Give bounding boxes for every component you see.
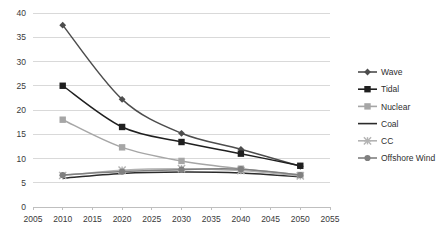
y-tick-label: 40	[17, 8, 27, 18]
legend-item-cc[interactable]: CC	[358, 136, 393, 146]
x-tick-label: 2055	[321, 214, 340, 224]
x-tick-label: 2040	[231, 214, 250, 224]
legend-item-tidal[interactable]: Tidal	[358, 84, 399, 94]
data-point-marker	[297, 163, 303, 169]
y-tick-label: 25	[17, 81, 27, 91]
data-point-marker	[178, 167, 184, 173]
series-line	[63, 86, 301, 166]
y-tick-label: 35	[17, 32, 27, 42]
data-point-marker	[364, 137, 371, 144]
y-tick-label: 5	[21, 178, 26, 188]
data-point-marker	[60, 83, 66, 89]
data-point-marker	[178, 158, 184, 164]
x-tick-label: 2025	[142, 214, 161, 224]
line-chart: 0510152025303540200520102015202020252030…	[0, 0, 440, 241]
legend-item-label: Wave	[381, 67, 403, 77]
data-point-marker	[364, 69, 371, 76]
data-point-marker	[238, 150, 244, 156]
x-tick-label: 2035	[202, 214, 221, 224]
chart-plot-area: 0510152025303540200520102015202020252030…	[0, 0, 440, 241]
legend-item-nuclear[interactable]: Nuclear	[358, 102, 410, 112]
data-point-marker	[119, 168, 125, 174]
series-group	[59, 22, 304, 180]
data-point-marker	[297, 172, 303, 178]
legend-item-label: Tidal	[381, 84, 399, 94]
data-point-marker	[60, 117, 66, 123]
y-tick-label: 15	[17, 129, 27, 139]
x-tick-label: 2010	[53, 214, 72, 224]
chart-legend: WaveTidalNuclearCoalCCOffshore Wind	[358, 67, 435, 163]
x-tick-label: 2015	[83, 214, 102, 224]
data-point-marker	[364, 103, 370, 109]
x-tick-label: 2020	[113, 214, 132, 224]
y-axis-tick-labels: 0510152025303540	[17, 8, 27, 212]
legend-item-offshore-wind[interactable]: Offshore Wind	[358, 153, 435, 163]
legend-item-coal[interactable]: Coal	[358, 119, 399, 129]
x-tick-label: 2005	[24, 214, 43, 224]
gridlines	[33, 13, 330, 207]
data-point-marker	[119, 144, 125, 150]
y-tick-label: 0	[21, 202, 26, 212]
x-tick-label: 2050	[291, 214, 310, 224]
data-point-marker	[178, 139, 184, 145]
x-tick-label: 2045	[261, 214, 280, 224]
series-wave	[59, 22, 303, 170]
y-tick-label: 30	[17, 57, 27, 67]
data-point-marker	[364, 86, 370, 92]
legend-item-wave[interactable]: Wave	[358, 67, 403, 77]
x-axis	[33, 207, 330, 210]
data-point-marker	[178, 130, 185, 137]
legend-item-label: CC	[381, 136, 393, 146]
data-point-marker	[60, 172, 66, 178]
data-point-marker	[119, 124, 125, 130]
y-tick-label: 20	[17, 105, 27, 115]
y-tick-label: 10	[17, 154, 27, 164]
data-point-marker	[238, 166, 244, 172]
data-point-marker	[364, 155, 370, 161]
legend-item-label: Nuclear	[381, 102, 410, 112]
x-axis-tick-labels: 2005201020152020202520302035204020452050…	[24, 214, 340, 224]
x-tick-label: 2030	[172, 214, 191, 224]
legend-item-label: Coal	[381, 119, 399, 129]
legend-item-label: Offshore Wind	[381, 153, 435, 163]
